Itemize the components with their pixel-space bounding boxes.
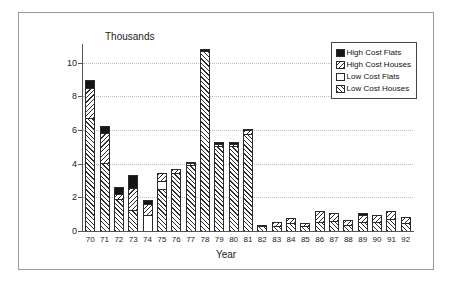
bar-segment bbox=[85, 80, 95, 88]
legend-swatch bbox=[336, 49, 345, 57]
bar-slot bbox=[255, 46, 269, 231]
bar-segment bbox=[386, 219, 396, 231]
bar-segment bbox=[171, 173, 181, 231]
stacked-bar[interactable] bbox=[257, 225, 267, 231]
y-axis-tick-label: 6 bbox=[53, 126, 77, 135]
bar-segment bbox=[243, 134, 253, 231]
y-axis-tick-label: 4 bbox=[53, 160, 77, 169]
x-axis-tick-label: 84 bbox=[284, 234, 298, 246]
bar-segment bbox=[157, 189, 167, 231]
bar-segment bbox=[286, 223, 296, 231]
stacked-bar[interactable] bbox=[386, 211, 396, 231]
legend-label: Low Cost Flats bbox=[347, 72, 400, 81]
stacked-bar[interactable] bbox=[186, 162, 196, 231]
legend-item[interactable]: High Cost Houses bbox=[336, 59, 411, 70]
x-axis-tick-label: 72 bbox=[112, 234, 126, 246]
stacked-bar[interactable] bbox=[200, 49, 210, 231]
x-axis-tick-label: 78 bbox=[198, 234, 212, 246]
bar-segment bbox=[272, 226, 282, 231]
legend-item[interactable]: Low Cost Flats bbox=[336, 71, 411, 82]
stacked-bar[interactable] bbox=[343, 220, 353, 231]
bar-slot bbox=[313, 46, 327, 231]
x-axis-tick-label: 77 bbox=[183, 234, 197, 246]
stacked-bar[interactable] bbox=[358, 213, 368, 231]
bar-segment bbox=[329, 221, 339, 231]
bar-segment bbox=[315, 222, 325, 231]
stacked-bar[interactable] bbox=[128, 175, 138, 231]
bar-segment bbox=[372, 222, 382, 231]
bar-slot bbox=[212, 46, 226, 231]
x-axis-tick-label: 85 bbox=[298, 234, 312, 246]
y-axis-tick-label: 2 bbox=[53, 193, 77, 202]
bar-segment bbox=[100, 133, 110, 163]
bar-slot bbox=[298, 46, 312, 231]
x-axis-line bbox=[82, 231, 414, 232]
legend-label: High Cost Houses bbox=[347, 60, 411, 69]
x-axis-tick-label: 81 bbox=[241, 234, 255, 246]
y-axis-title: Thousands bbox=[105, 31, 154, 42]
bar-slot bbox=[183, 46, 197, 231]
x-axis-tick-label: 74 bbox=[140, 234, 154, 246]
bar-segment bbox=[257, 226, 267, 231]
bar-segment bbox=[229, 146, 239, 231]
x-axis-tick-label: 89 bbox=[356, 234, 370, 246]
y-axis-tick-label: 0 bbox=[53, 227, 77, 236]
bar-slot bbox=[226, 46, 240, 231]
stacked-bar[interactable] bbox=[286, 218, 296, 231]
legend-item[interactable]: Low Cost Houses bbox=[336, 83, 411, 94]
bar-segment bbox=[114, 187, 124, 194]
y-axis-tick-label: 10 bbox=[53, 59, 77, 68]
x-axis-tick-label: 92 bbox=[399, 234, 413, 246]
bar-slot bbox=[269, 46, 283, 231]
bar-segment bbox=[401, 217, 411, 224]
bar-segment bbox=[128, 188, 138, 210]
bar-segment bbox=[143, 215, 153, 231]
bar-slot bbox=[241, 46, 255, 231]
bar-segment bbox=[100, 163, 110, 231]
bar-slot bbox=[112, 46, 126, 231]
stacked-bar[interactable] bbox=[171, 169, 181, 231]
stacked-bar[interactable] bbox=[114, 187, 124, 231]
stacked-bar[interactable] bbox=[401, 217, 411, 231]
bar-segment bbox=[128, 210, 138, 231]
bar-segment bbox=[114, 199, 124, 231]
x-axis-tick-label: 79 bbox=[212, 234, 226, 246]
bar-slot bbox=[284, 46, 298, 231]
bar-segment bbox=[386, 211, 396, 219]
stacked-bar[interactable] bbox=[329, 213, 339, 231]
bar-segment bbox=[143, 204, 153, 215]
stacked-bar[interactable] bbox=[214, 142, 224, 231]
bar-segment bbox=[358, 215, 368, 222]
stacked-bar[interactable] bbox=[85, 80, 95, 231]
stacked-bar[interactable] bbox=[143, 200, 153, 231]
stacked-bar[interactable] bbox=[300, 223, 310, 231]
stacked-bar[interactable] bbox=[272, 222, 282, 231]
stacked-bar[interactable] bbox=[243, 129, 253, 231]
x-axis-tick-label: 80 bbox=[226, 234, 240, 246]
x-axis-tick-label: 90 bbox=[370, 234, 384, 246]
bar-segment bbox=[358, 222, 368, 231]
x-axis-tick-label: 71 bbox=[97, 234, 111, 246]
bar-segment bbox=[186, 165, 196, 231]
stacked-bar[interactable] bbox=[229, 142, 239, 231]
stacked-bar[interactable] bbox=[372, 215, 382, 231]
bar-slot bbox=[140, 46, 154, 231]
bar-segment bbox=[401, 223, 411, 231]
chart-frame: Thousands 0246810 7071727374757677787980… bbox=[18, 12, 434, 270]
bar-segment bbox=[200, 51, 210, 231]
stacked-bar[interactable] bbox=[100, 126, 110, 231]
stacked-bar[interactable] bbox=[315, 211, 325, 231]
bar-slot bbox=[126, 46, 140, 231]
bar-slot bbox=[169, 46, 183, 231]
stacked-bar[interactable] bbox=[157, 173, 167, 231]
legend-swatch bbox=[336, 61, 345, 69]
bar-slot bbox=[198, 46, 212, 231]
bar-segment bbox=[100, 126, 110, 133]
x-axis-tick-label: 73 bbox=[126, 234, 140, 246]
bar-slot bbox=[155, 46, 169, 231]
x-axis-tick-label: 70 bbox=[83, 234, 97, 246]
bar-segment bbox=[329, 213, 339, 221]
x-axis-tick-label: 76 bbox=[169, 234, 183, 246]
legend-label: High Cost Flats bbox=[347, 48, 402, 57]
legend-item[interactable]: High Cost Flats bbox=[336, 47, 411, 58]
